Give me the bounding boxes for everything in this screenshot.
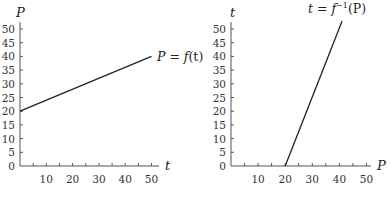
svg-text:50: 50 <box>360 173 373 185</box>
right-series-line <box>285 21 342 166</box>
svg-text:40: 40 <box>213 50 226 62</box>
svg-text:5: 5 <box>219 146 226 158</box>
svg-text:10: 10 <box>213 133 226 145</box>
left-series-line <box>20 56 152 111</box>
right-y-axis-label: t <box>230 5 236 20</box>
svg-text:5: 5 <box>8 146 15 158</box>
right-x-tick-labels: 10 20 30 40 50 <box>251 173 373 185</box>
left-x-axis-label: t <box>165 158 171 173</box>
right-chart: 0 5 10 15 20 25 30 35 40 45 50 10 20 30 … <box>213 1 386 185</box>
svg-text:35: 35 <box>2 64 15 76</box>
right-y-tick-labels: 0 5 10 15 20 25 30 35 40 45 50 <box>213 23 226 172</box>
left-chart: 0 5 10 15 20 25 30 35 40 45 50 10 20 30 … <box>2 5 204 185</box>
left-y-tick-labels: 0 5 10 15 20 25 30 35 40 45 50 <box>2 23 15 172</box>
svg-text:45: 45 <box>213 37 226 49</box>
svg-text:40: 40 <box>119 173 132 185</box>
svg-text:20: 20 <box>213 105 226 117</box>
svg-text:25: 25 <box>213 92 226 104</box>
left-x-tick-labels: 10 20 30 40 50 <box>40 173 159 185</box>
svg-text:25: 25 <box>2 92 15 104</box>
svg-text:10: 10 <box>251 173 264 185</box>
svg-text:15: 15 <box>2 119 15 131</box>
figure: 0 5 10 15 20 25 30 35 40 45 50 10 20 30 … <box>0 0 391 197</box>
svg-text:10: 10 <box>40 173 53 185</box>
svg-text:30: 30 <box>2 78 15 90</box>
svg-text:30: 30 <box>213 78 226 90</box>
svg-text:50: 50 <box>2 23 15 35</box>
right-equation-label: t = f−1(P) <box>308 1 366 16</box>
right-x-axis-label: P <box>376 158 386 173</box>
svg-text:0: 0 <box>8 160 15 172</box>
svg-text:15: 15 <box>213 119 226 131</box>
svg-text:35: 35 <box>213 64 226 76</box>
left-equation-label: P = f(t) <box>156 49 203 64</box>
svg-text:20: 20 <box>2 105 15 117</box>
svg-text:20: 20 <box>279 173 292 185</box>
svg-text:20: 20 <box>66 173 79 185</box>
svg-text:45: 45 <box>2 37 15 49</box>
svg-text:50: 50 <box>145 173 158 185</box>
svg-text:50: 50 <box>213 23 226 35</box>
svg-text:40: 40 <box>333 173 346 185</box>
svg-text:30: 30 <box>306 173 319 185</box>
svg-text:30: 30 <box>92 173 105 185</box>
svg-text:40: 40 <box>2 50 15 62</box>
svg-text:0: 0 <box>219 160 226 172</box>
svg-text:10: 10 <box>2 133 15 145</box>
left-y-axis-label: P <box>15 5 25 20</box>
